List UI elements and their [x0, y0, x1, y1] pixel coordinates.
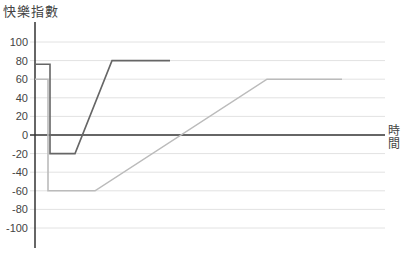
y-tick-label: -40 — [12, 166, 28, 178]
y-tick-label: 40 — [16, 92, 28, 104]
y-tick-label: -100 — [6, 222, 28, 234]
data-series — [35, 61, 342, 191]
y-tick-label: -80 — [12, 203, 28, 215]
y-tick-label: 80 — [16, 55, 28, 67]
line-chart: 100806040200-20-40-60-80-100 — [0, 0, 402, 268]
y-tick-label: 60 — [16, 73, 28, 85]
y-tick-label: 20 — [16, 110, 28, 122]
series-line-dark — [35, 61, 170, 154]
y-tick-label: -20 — [12, 148, 28, 160]
y-tick-label: 0 — [22, 129, 28, 141]
y-tick-label: 100 — [10, 36, 28, 48]
y-tick-label: -60 — [12, 185, 28, 197]
y-tick-labels: 100806040200-20-40-60-80-100 — [6, 36, 28, 234]
